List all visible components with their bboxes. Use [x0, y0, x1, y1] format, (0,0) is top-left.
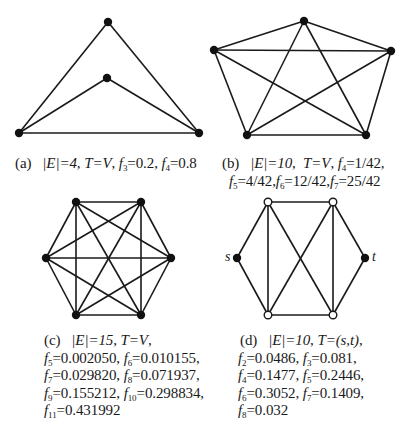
- graph-d-source-node: [233, 254, 241, 262]
- graph-a-node: [103, 74, 111, 82]
- graph-b-node: [243, 131, 251, 139]
- graph-d-node: [329, 198, 337, 206]
- source-label: s: [225, 249, 230, 265]
- target-label: t: [372, 249, 376, 265]
- graph-b: [210, 17, 395, 139]
- caption-d: (d) |E|=10, T=(s,t), f2=0.0486, f3=0.081…: [238, 332, 364, 420]
- graph-b-node: [210, 46, 218, 54]
- graph-d-node: [264, 311, 272, 319]
- graph-c-node: [72, 198, 80, 206]
- graph-d-node: [264, 198, 272, 206]
- caption-a: (a) |E|=4, T=V, f3=0.2, f4=0.8: [15, 155, 197, 173]
- graph-c-node: [72, 311, 80, 319]
- caption-b: (b) |E|=10, T=V, f4=1/42, f5=4/42,f6=12/…: [222, 155, 384, 190]
- graph-c-node: [137, 198, 145, 206]
- graph-c-node: [42, 254, 50, 262]
- graph-c: [42, 198, 175, 319]
- graph-a-node: [195, 129, 203, 137]
- caption-c: (c) |E|=15, T=V, f5=0.002050, f6=0.01015…: [44, 332, 204, 420]
- graph-b-node: [300, 17, 308, 25]
- graph-d-target-node: [361, 254, 369, 262]
- graph-b-node: [387, 47, 395, 55]
- graph-a: [15, 18, 203, 137]
- caption-tag: (a): [15, 155, 31, 171]
- graph-a-node: [104, 18, 112, 26]
- graph-d-node: [329, 311, 337, 319]
- graph-a-node: [15, 129, 23, 137]
- graph-c-node: [167, 254, 175, 262]
- graph-b-node: [362, 131, 370, 139]
- terminal-set: T=V: [84, 155, 111, 171]
- edge-count: |E|=4: [42, 155, 77, 171]
- graph-d: [233, 198, 369, 319]
- graph-c-node: [137, 311, 145, 319]
